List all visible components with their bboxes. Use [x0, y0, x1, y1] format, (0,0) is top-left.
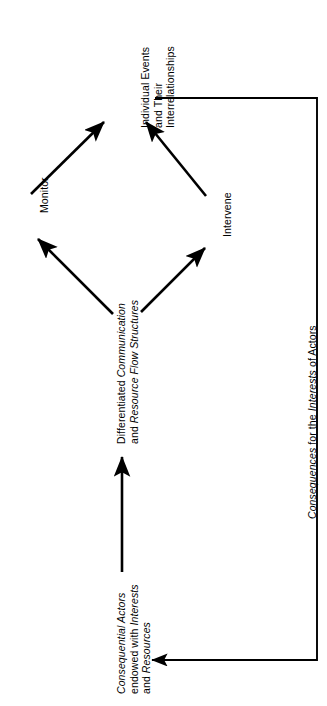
node-events-line-3: Interrelationships — [164, 46, 177, 128]
edge-label-intervene-text: Intervene — [221, 192, 234, 237]
node-actors-line-3-plain: and — [140, 673, 152, 694]
arrow-structures-to-intervene — [141, 248, 205, 312]
edge-label-consequences-part-1: Consequences — [306, 448, 318, 519]
feedback-loop-path — [152, 98, 317, 660]
edge-label-intervene: Intervene — [221, 192, 234, 237]
edge-label-consequences: Consequences for the Interests of Actors — [306, 325, 319, 519]
node-label-individual-events: Individual Events and Their Interrelatio… — [139, 46, 177, 128]
node-actors-line-3-italic: Resources — [140, 622, 152, 673]
node-structures-line-1-italic: Communication — [115, 303, 127, 377]
node-structures-line-1-plain: Differentiated — [115, 377, 127, 444]
edge-label-consequences-text: Consequences for the Interests of Actors — [306, 325, 319, 519]
node-structures-line-1: Differentiated Communication — [115, 300, 128, 444]
node-events-line-1: Individual Events — [139, 46, 152, 128]
node-structures-line-2-italic: Resource Flow Structures — [128, 300, 140, 423]
edge-label-consequences-part-3: Interests — [306, 370, 318, 411]
node-actors-line-1: Consequential Actors — [115, 584, 128, 694]
arrow-intervene-to-events — [146, 122, 206, 196]
node-actors-line-3: and Resources — [140, 584, 153, 694]
node-events-line-2: and Their — [152, 46, 165, 128]
node-structures-line-2-plain: and — [128, 423, 140, 444]
arrow-structures-to-monitor — [38, 239, 113, 314]
node-label-differentiated-communication: Differentiated Communication and Resourc… — [115, 300, 140, 444]
diagram-canvas: Individual Events and Their Interrelatio… — [0, 0, 327, 706]
edge-label-monitor-text: Monitor — [38, 177, 51, 213]
edge-label-consequences-part-4: of Actors — [306, 325, 318, 370]
node-structures-line-2: and Resource Flow Structures — [128, 300, 141, 444]
node-label-consequential-actors: Consequential Actors endowed with Intere… — [115, 584, 153, 694]
edge-label-consequences-part-2: for the — [306, 411, 318, 448]
node-actors-line-2-plain: endowed with — [128, 626, 140, 694]
edge-label-monitor: Monitor — [38, 177, 51, 213]
node-actors-line-2-italic: Interests — [128, 584, 140, 625]
node-actors-line-2: endowed with Interests — [128, 584, 141, 694]
